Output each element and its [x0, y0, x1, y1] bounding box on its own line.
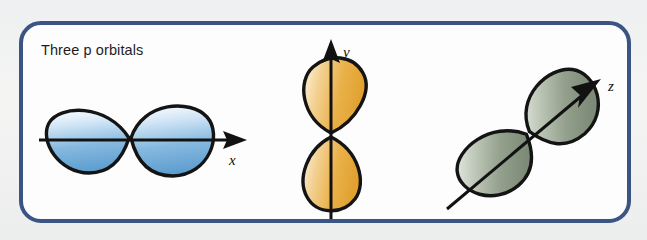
figure-caption: Three p orbitals: [41, 42, 143, 58]
orbital-diagram-px: x: [33, 83, 263, 193]
orbital-lobe-py-top: [304, 58, 366, 133]
axis-label-z: z: [607, 78, 614, 94]
figure-panel: Three p orbitals x: [19, 21, 631, 223]
orbital-diagram-py: y: [271, 25, 391, 223]
orbital-lobe-px-left: [46, 110, 129, 173]
axis-label-x: x: [228, 152, 236, 168]
orbital-diagram-pz: z: [423, 43, 631, 223]
axis-label-y: y: [341, 44, 350, 60]
